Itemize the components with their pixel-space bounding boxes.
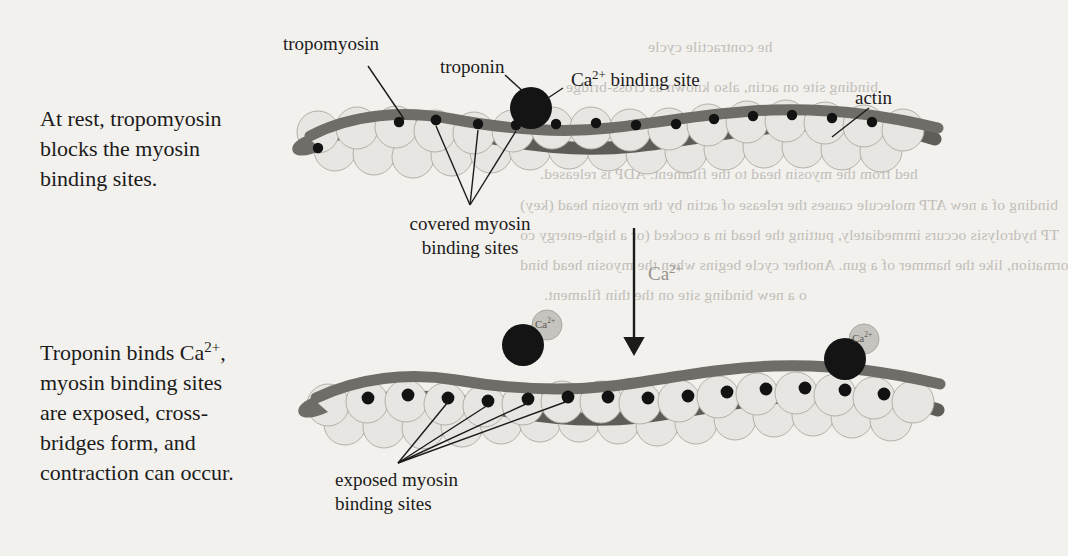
label-ca-arrow-pre: Ca [648, 263, 669, 284]
label-covered-line-2: binding sites [362, 236, 578, 260]
caption-calcium-bound-line-3: are exposed, cross- [40, 398, 340, 428]
label-covered-binding-sites: covered myosin binding sites [362, 212, 578, 260]
caption-cb-l1-sup: 2+ [204, 339, 220, 355]
label-exposed-binding-sites: exposed myosin binding sites [335, 468, 458, 516]
caption-at-rest: At rest, tropomyosin blocks the myosin b… [40, 104, 320, 194]
caption-cb-l1-pre: Troponin binds Ca [40, 340, 204, 365]
label-troponin: troponin [440, 55, 504, 79]
caption-calcium-bound-line-5: contraction can occur. [40, 458, 340, 488]
label-exposed-line-1: exposed myosin [335, 468, 458, 492]
label-calcium-transition: Ca2+ [648, 262, 683, 286]
label-ca-post: binding site [606, 69, 700, 90]
caption-calcium-bound-line-2: myosin binding sites [40, 368, 340, 398]
troponin-top [510, 87, 552, 129]
filament-calcium-bound [298, 310, 940, 463]
label-tropomyosin: tropomyosin [283, 32, 379, 56]
label-exposed-line-2: binding sites [335, 492, 458, 516]
troponin-bottom-right [824, 338, 866, 380]
caption-calcium-bound-line-4: bridges form, and [40, 428, 340, 458]
caption-calcium-bound-line-1: Troponin binds Ca2+, [40, 338, 340, 368]
caption-at-rest-line-1: At rest, tropomyosin [40, 104, 320, 134]
caption-cb-l1-post: , [220, 340, 226, 365]
label-covered-line-1: covered myosin [362, 212, 578, 236]
label-actin: actin [855, 86, 892, 110]
label-ca-pre: Ca [571, 69, 592, 90]
leader-troponin [505, 75, 527, 95]
label-ca-binding-site: Ca2+ binding site [571, 68, 700, 92]
caption-at-rest-line-3: binding sites. [40, 164, 320, 194]
troponin-calcium-complex-left [502, 310, 562, 366]
troponin-bottom-left [502, 324, 544, 366]
leader-ca-binding-site [545, 88, 563, 100]
label-ca-sup: 2+ [592, 67, 606, 82]
caption-calcium-bound: Troponin binds Ca2+, myosin binding site… [40, 338, 340, 488]
caption-at-rest-line-2: blocks the myosin [40, 134, 320, 164]
label-ca-arrow-sup: 2+ [669, 261, 683, 276]
